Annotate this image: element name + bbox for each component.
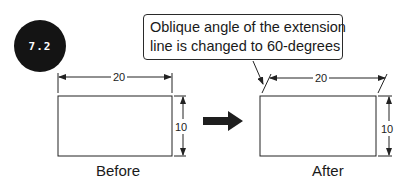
- after-extension-left-oblique: [262, 74, 271, 93]
- drawing-canvas: 20 10 20 10: [0, 0, 408, 183]
- after-height-value: 10: [381, 123, 393, 135]
- callout-leader-line: [253, 61, 263, 84]
- before-height-value: 10: [175, 121, 187, 133]
- after-extension-right-oblique: [378, 74, 387, 93]
- after-width-value: 20: [315, 72, 327, 84]
- after-rectangle: [260, 96, 376, 156]
- after-caption: After: [312, 162, 344, 179]
- before-caption: Before: [96, 162, 140, 179]
- right-arrow-icon: [203, 111, 243, 131]
- before-rectangle: [58, 96, 172, 156]
- before-drawing: 20 10: [58, 71, 187, 156]
- before-width-value: 20: [113, 71, 125, 83]
- after-drawing: 20 10: [260, 72, 393, 156]
